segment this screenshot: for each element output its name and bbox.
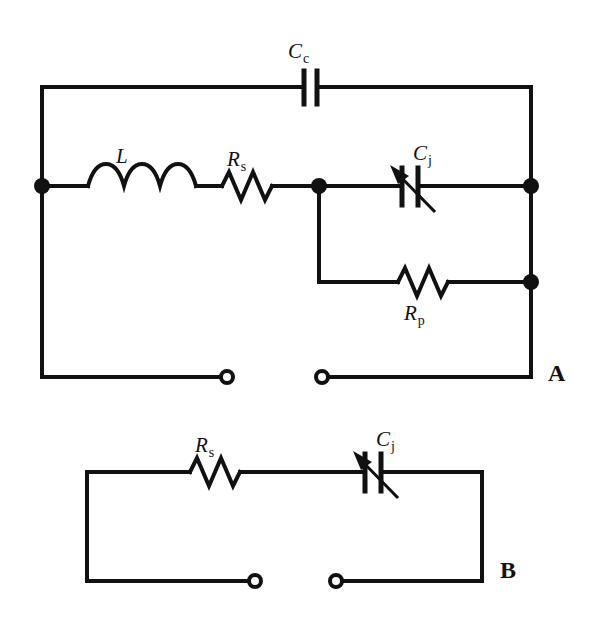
panel-b-bottom-rail [87,575,482,587]
label-rp: Rp [403,301,425,328]
node-left-a [34,178,50,194]
resistor-rp [398,268,448,296]
terminal-right-b[interactable] [330,575,342,587]
node-right-upper-a [523,178,539,194]
label-l: L [115,144,128,168]
panel-a: Cc L Rs Cj [34,39,566,386]
terminal-right-a[interactable] [316,371,328,383]
label-cj-b: Cj [376,427,395,454]
resistor-rs-a [222,172,272,200]
panel-a-middle-rail [42,164,531,200]
capacitor-cc [304,71,317,104]
panel-b: Rs Cj B [87,427,516,587]
node-right-lower-a [523,274,539,290]
terminal-left-a[interactable] [221,371,233,383]
label-rs-b: Rs [194,433,214,460]
panel-label-a: A [548,360,566,386]
panel-a-bottom-rail [42,371,531,383]
panel-label-b: B [500,557,516,583]
resistor-rs-b [190,458,240,486]
label-cc: Cc [288,39,309,66]
panel-b-top-rail [87,458,482,486]
label-cj-a: Cj [413,141,432,168]
inductor-l [88,164,196,186]
node-middle-a [311,178,327,194]
label-rs-a: Rs [226,147,246,174]
circuit-figure: Cc L Rs Cj [0,0,599,620]
terminal-left-b[interactable] [249,575,261,587]
